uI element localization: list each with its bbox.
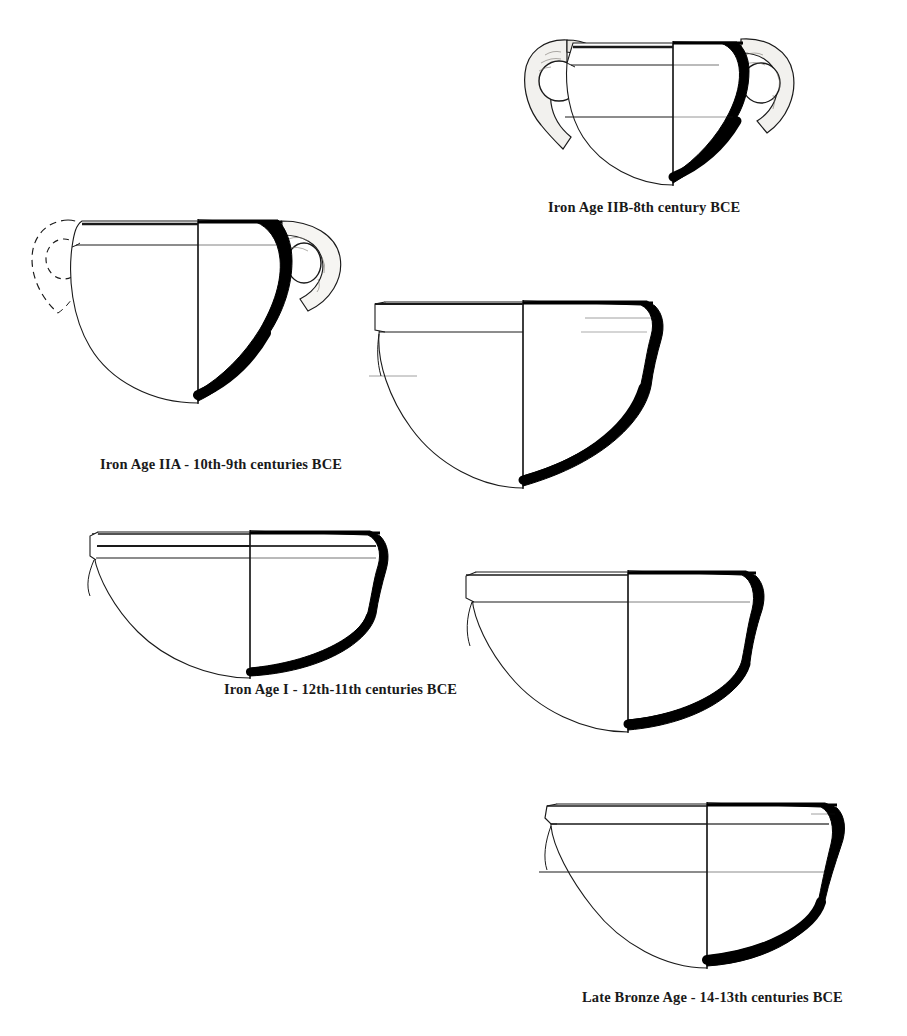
- vessel-iron-age-iia-secondary: [355, 288, 685, 503]
- left-profile-outline: [94, 532, 250, 678]
- vessel-iron-age-i: [70, 520, 430, 690]
- vessel-late-bronze-age: [525, 790, 875, 985]
- vessel-iron-age-iia: [20, 205, 380, 420]
- caption-late-bronze-age: Late Bronze Age - 14-13th centuries BCE: [582, 989, 843, 1006]
- right-section-wall: [673, 42, 749, 183]
- left-profile-outline: [71, 221, 198, 403]
- right-section-wall: [198, 220, 292, 401]
- rim-profile: [545, 804, 557, 824]
- vessel-iron-age-iib: [505, 25, 850, 200]
- left-profile-outline: [472, 572, 628, 732]
- left-profile-outline: [379, 302, 523, 488]
- left-profile-outline: [567, 43, 673, 185]
- rim-profile: [375, 302, 385, 332]
- caption-iron-age-i: Iron Age I - 12th-11th centuries BCE: [224, 681, 457, 698]
- caption-iron-age-iia: Iron Age IIA - 10th-9th centuries BCE: [100, 456, 342, 473]
- caption-iron-age-iib: Iron Age IIB-8th century BCE: [548, 199, 740, 216]
- vessel-iron-age-i-secondary: [450, 560, 790, 750]
- right-loop-handle-icon: [741, 39, 794, 133]
- left-profile-outline: [551, 804, 707, 968]
- pottery-typology-plate: Iron Age IIB-8th century BCE: [0, 0, 907, 1036]
